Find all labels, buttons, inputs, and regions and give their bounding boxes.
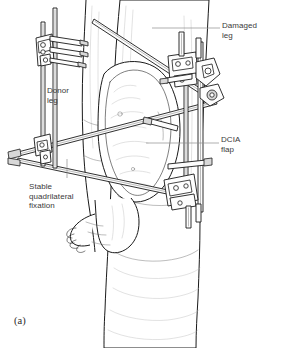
label-dcia-flap: DCIA flap bbox=[221, 135, 240, 154]
figure-container: .ink { fill:none; stroke:#1a1a1a; stroke… bbox=[0, 0, 281, 348]
foot bbox=[67, 198, 139, 253]
label-donor-leg: Donor leg bbox=[47, 86, 69, 105]
label-stable-quadrilateral-fixation: Stable quadrilateral fixation bbox=[29, 182, 74, 211]
medical-illustration-svg: .ink { fill:none; stroke:#1a1a1a; stroke… bbox=[0, 0, 281, 348]
label-damaged-leg: Damaged leg bbox=[222, 21, 257, 40]
figure-caption: (a) bbox=[14, 315, 26, 326]
upper-left-clamp bbox=[36, 34, 88, 68]
